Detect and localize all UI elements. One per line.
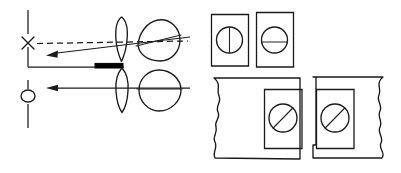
- optics-figure: [0, 0, 401, 173]
- upper-eye: [136, 20, 181, 61]
- lower-eye: [137, 70, 182, 111]
- lower-lens: [116, 68, 128, 113]
- lower-axial-ray: [46, 85, 190, 91]
- left-torn-panel: [214, 78, 302, 159]
- ray-optics-panel: [21, 10, 190, 128]
- card-horizontal-slit: [257, 13, 294, 68]
- inner-card-left: [265, 90, 303, 149]
- inner-card-right: [317, 90, 355, 149]
- disc-diagonal-line-left: [269, 104, 297, 132]
- upper-eye-equator: [136, 35, 181, 46]
- disc-vertical-line: [217, 27, 243, 53]
- upper-chief-ray: [46, 37, 190, 58]
- arrowhead-upper: [46, 51, 58, 58]
- object-marker-circle: [21, 90, 35, 102]
- dashed-virtual-ray: [37, 41, 188, 44]
- upper-lens: [116, 17, 128, 62]
- figure-root: [0, 0, 401, 173]
- arrowhead-lower: [46, 85, 58, 91]
- disc-diagonal-line-right: [321, 104, 349, 132]
- opaque-screen-bar: [95, 63, 123, 68]
- disc-horizontal-line: [262, 27, 288, 53]
- card-vertical-slit: [212, 15, 249, 67]
- panel-grid: [212, 13, 384, 160]
- right-torn-panel: [313, 77, 383, 158]
